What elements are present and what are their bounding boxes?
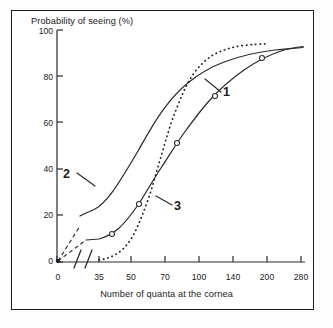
axis-lines (57, 30, 305, 262)
curve-1-marker-2 (137, 202, 142, 207)
x-axis-ticks (57, 256, 301, 262)
curve-1 (86, 47, 303, 241)
curve-1-marker-5 (260, 56, 265, 61)
origin-dashed-leaders (58, 226, 86, 261)
curve-label-leaders (77, 79, 221, 205)
leader-to-curve-2 (77, 173, 95, 186)
leader-to-curve-3 (156, 196, 172, 205)
curve-2 (80, 48, 303, 217)
axis-break-marks (74, 250, 92, 268)
origin-point (56, 259, 60, 263)
curve-1-marker-3 (175, 141, 180, 146)
curve-3 (99, 44, 266, 260)
figure-container: Probability of seeing (%) Number of quan… (0, 0, 333, 328)
curve-1-marker-4 (213, 94, 218, 99)
y-axis-ticks (57, 30, 63, 262)
curve-1-markers (110, 56, 265, 237)
curve-1-marker-1 (110, 232, 115, 237)
leader-to-curve-1 (205, 79, 221, 92)
plot-area (0, 0, 333, 328)
